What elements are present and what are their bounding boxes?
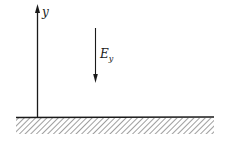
ground-line xyxy=(16,117,214,118)
field-label: Ey xyxy=(99,47,114,63)
ground-hatching xyxy=(16,118,214,134)
ground xyxy=(16,117,214,134)
diagram-canvas: y Ey xyxy=(0,0,227,142)
arrow-up-icon xyxy=(35,4,40,13)
y-axis-label: y xyxy=(41,5,49,19)
y-axis: y xyxy=(35,4,49,118)
field-arrow: Ey xyxy=(93,28,114,83)
arrow-down-icon xyxy=(93,74,98,83)
